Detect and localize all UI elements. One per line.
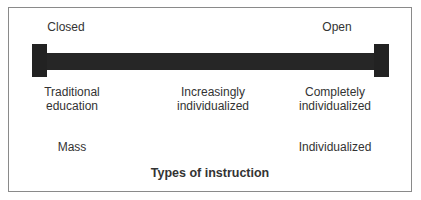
label-mass: Mass (58, 140, 87, 154)
continuum-bar (44, 53, 376, 70)
label-line: individualized (299, 99, 371, 113)
label-completely-individualized: Completely individualized (299, 85, 371, 113)
label-increasingly-individualized: Increasingly individualized (177, 85, 249, 113)
continuum-left-endcap (32, 44, 47, 77)
label-traditional-education: Traditional education (44, 85, 100, 113)
label-line: education (44, 99, 100, 113)
label-line: individualized (177, 99, 249, 113)
label-line: Completely (299, 85, 371, 99)
label-line: Increasingly (177, 85, 249, 99)
diagram-title: Types of instruction (151, 166, 270, 180)
label-line: Traditional (44, 85, 100, 99)
label-open: Open (322, 20, 351, 34)
label-closed: Closed (47, 20, 84, 34)
continuum-right-endcap (374, 44, 389, 77)
label-individualized: Individualized (299, 140, 372, 154)
